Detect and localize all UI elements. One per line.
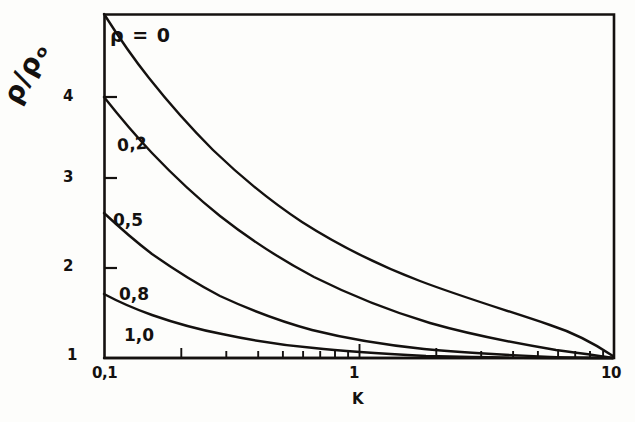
y-tick-label-4: 4 (63, 89, 73, 104)
data-curves (104, 14, 613, 358)
x-axis-title: K (352, 392, 364, 407)
curve-label-rho-10: 1,0 (124, 327, 154, 344)
x-tick-label-1: 1 (349, 366, 359, 381)
plot-frame (105, 15, 615, 359)
x-tick-label-10: 10 (601, 366, 621, 381)
curve-label-rho-05: 0,5 (113, 212, 143, 229)
curve-rho-05 (104, 213, 613, 358)
figure-canvas: ρ/ρₒ 4 3 2 1 0,1 1 10 K ρ = 0 0,2 0,5 0,… (0, 0, 635, 422)
curve-label-rho-02: 0,2 (116, 134, 148, 154)
curve-rho-02 (104, 97, 613, 358)
curve-rho-0 (104, 14, 613, 356)
y-tick-label-1: 1 (67, 348, 77, 363)
y-axis-ticks (104, 97, 117, 268)
x-tick-label-0.1: 0,1 (92, 366, 117, 381)
curve-label-rho-08: 0,8 (119, 286, 149, 303)
plot-area (0, 0, 635, 422)
y-tick-label-2: 2 (63, 259, 73, 274)
curve-label-rho-0: ρ = 0 (110, 26, 171, 45)
y-tick-label-3: 3 (63, 170, 73, 185)
